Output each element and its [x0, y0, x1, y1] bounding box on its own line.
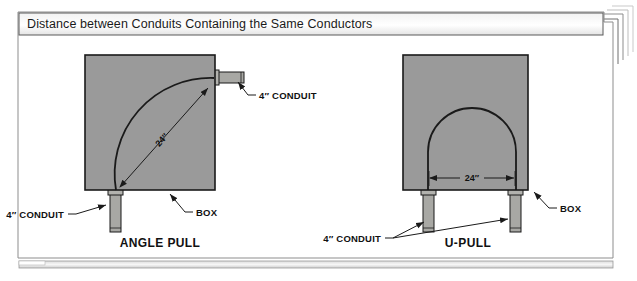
angle-pull-box — [85, 55, 215, 190]
angle-pull-caption: ANGLE PULL — [120, 236, 201, 250]
u-pull-caption: U-PULL — [445, 236, 491, 250]
u-pull-dimension-label: 24″ — [465, 173, 480, 183]
angle-pull-top-conduit-label: 4″ CONDUIT — [259, 90, 317, 101]
u-pull-right-conduit — [508, 188, 523, 232]
u-pull-left-conduit — [421, 188, 436, 232]
angle-pull-vertical-conduit — [108, 188, 123, 232]
figure-title: Distance between Conduits Containing the… — [27, 17, 372, 31]
u-pull-conduit-label: 4″ CONDUIT — [323, 233, 381, 244]
conduit-distance-figure: Distance between Conduits Containing the… — [0, 0, 637, 281]
u-pull-box-label: BOX — [560, 203, 582, 214]
bottom-shadow-bar — [19, 261, 613, 268]
figure-title-bar: Distance between Conduits Containing the… — [19, 13, 603, 35]
angle-pull-bottom-conduit-label: 4″ CONDUIT — [6, 209, 64, 220]
angle-pull-box-label: BOX — [196, 207, 218, 218]
figure-canvas: Distance between Conduits Containing the… — [0, 0, 637, 281]
u-pull-box — [403, 55, 528, 190]
